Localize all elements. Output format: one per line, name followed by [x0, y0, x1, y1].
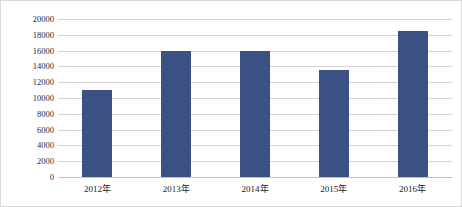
x-axis-labels: 2012年2013年2014年2015年2016年 — [58, 182, 452, 200]
axis-baseline — [58, 177, 452, 178]
bar-slot — [137, 19, 216, 177]
y-axis-tick-label: 12000 — [33, 77, 54, 87]
x-axis-tick-label: 2013年 — [163, 182, 190, 195]
bar-chart: 收费站年平均日交通量(辆/日) 020004000600080001000012… — [0, 0, 462, 207]
y-axis-tick-label: 0 — [50, 172, 54, 182]
plot-area: 0200040006000800010000120001400016000180… — [58, 19, 452, 177]
y-axis-tick-label: 14000 — [33, 61, 54, 71]
bar-series — [58, 19, 452, 177]
x-axis-tick-label: 2012年 — [84, 182, 111, 195]
x-axis-tick-label: 2015年 — [320, 182, 347, 195]
y-axis-tick-label: 6000 — [37, 125, 54, 135]
y-axis-tick-label: 8000 — [37, 109, 54, 119]
y-axis-tick-label: 18000 — [33, 30, 54, 40]
bar[interactable] — [161, 51, 191, 177]
bar[interactable] — [398, 31, 428, 177]
y-axis-tick-label: 10000 — [33, 93, 54, 103]
bar[interactable] — [319, 70, 349, 177]
bar[interactable] — [82, 90, 112, 177]
y-axis-tick-label: 16000 — [33, 46, 54, 56]
bar-slot — [373, 19, 452, 177]
bar[interactable] — [240, 51, 270, 177]
y-axis-tick-label: 20000 — [33, 14, 54, 24]
bar-slot — [294, 19, 373, 177]
y-axis-tick-label: 4000 — [37, 140, 54, 150]
bar-slot — [216, 19, 295, 177]
y-axis-tick-label: 2000 — [37, 156, 54, 166]
x-axis-tick-label: 2014年 — [242, 182, 269, 195]
x-axis-tick-label: 2016年 — [399, 182, 426, 195]
bar-slot — [58, 19, 137, 177]
